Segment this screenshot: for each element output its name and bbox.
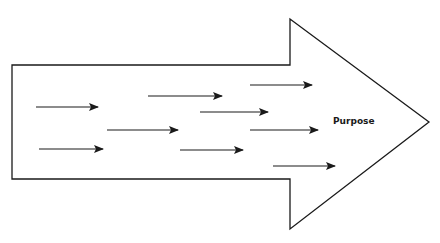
purpose-label: Purpose xyxy=(333,116,375,126)
purpose-diagram: Purpose xyxy=(0,0,440,243)
